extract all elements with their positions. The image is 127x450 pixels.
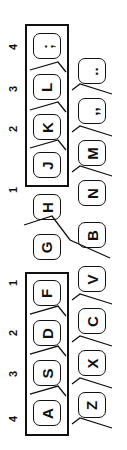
finger-divider-lines — [0, 0, 127, 450]
